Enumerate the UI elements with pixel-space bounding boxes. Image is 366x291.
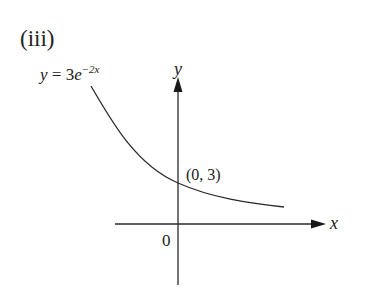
y-axis-label: y xyxy=(174,60,182,78)
curve-equation-label: y = 3e−2x xyxy=(40,64,100,83)
equation-equals: = 3 xyxy=(48,65,75,84)
x-axis-arrow-icon xyxy=(311,220,326,229)
y-axis-arrow-icon xyxy=(174,77,183,92)
exponential-curve xyxy=(91,86,284,207)
x-axis-label: x xyxy=(330,214,338,232)
equation-base: e xyxy=(74,65,82,84)
y-intercept-label: (0, 3) xyxy=(186,167,221,183)
equation-lhs: y xyxy=(40,65,48,84)
equation-exponent: −2x xyxy=(82,63,100,75)
graph-canvas xyxy=(0,0,366,291)
exponential-graph-figure: (iii) y = 3e−2x y x (0, 3) 0 xyxy=(0,0,366,291)
origin-label: 0 xyxy=(162,232,171,249)
part-label: (iii) xyxy=(20,27,55,50)
